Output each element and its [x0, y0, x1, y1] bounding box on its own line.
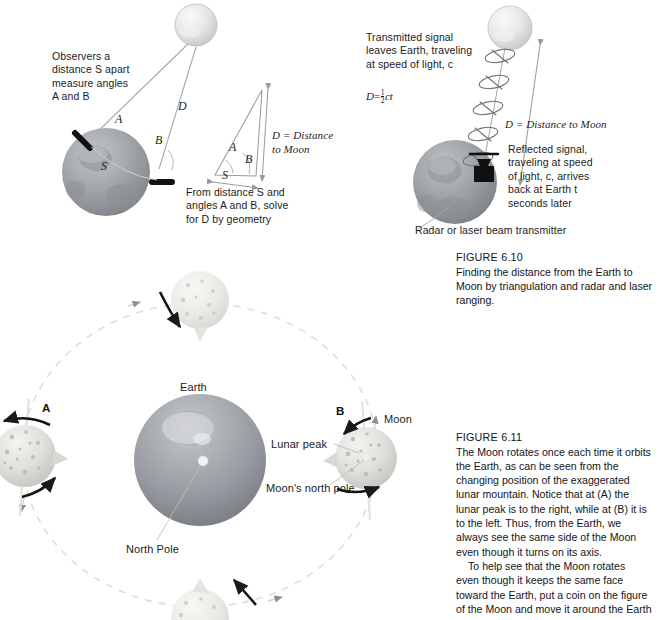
moon-b-north-pole-dot	[363, 454, 369, 460]
figure-611-caption-title: FIGURE 6.11	[456, 430, 665, 445]
earth-north-pole-dot	[198, 456, 208, 466]
orbit-position-b-tag: B	[336, 405, 344, 417]
triangle-side-label-s: S	[222, 168, 228, 183]
moon-position-a	[0, 399, 68, 516]
figure-610-caption: FIGURE 6.10 Finding the distance from th…	[456, 250, 661, 307]
radar-distance-to-moon-label: D = Distance to Moon	[505, 103, 660, 131]
figure-611-caption-paragraph-2: To help see that the Moon rotates even t…	[456, 559, 665, 616]
reflected-signal-note: Reflected signal, traveling at speed of …	[508, 143, 628, 210]
moon-top-sphere	[171, 271, 229, 329]
triangle-d-distance-label: D = Distance to Moon	[272, 128, 342, 157]
figure-610-caption-body: Finding the distance from the Earth to M…	[456, 265, 661, 308]
angle-label-b: B	[155, 133, 162, 148]
orbit-position-a-tag: A	[42, 402, 50, 414]
triangulation-diagram	[62, 4, 268, 216]
moon-position-top	[160, 271, 229, 342]
orbit-direction-arrow-top	[128, 302, 140, 306]
triangle-d-measure	[262, 89, 268, 181]
formula-fraction: 12	[381, 89, 385, 105]
orbit-direction-arrow-bottom	[268, 597, 282, 601]
moon-top-lunar-peak	[194, 327, 208, 342]
transmitted-signal-note: Transmitted signal leaves Earth, traveli…	[366, 31, 494, 71]
figure-610-caption-title: FIGURE 6.10	[456, 250, 661, 265]
figure-611-caption-paragraph-1: The Moon rotates once each time it orbit…	[456, 445, 665, 559]
moon-a-sphere	[0, 425, 56, 487]
triangle-angle-label-a: A	[229, 140, 236, 155]
orbit-diagram	[0, 271, 397, 620]
triangle-outline	[215, 90, 262, 176]
geometry-note: From distance S and angles A and B, solv…	[186, 186, 321, 226]
triangle-angle-label-b: B	[245, 152, 252, 167]
angle-arc-b	[168, 150, 173, 170]
formula-d: D	[366, 90, 374, 102]
formula-denominator: 2	[381, 96, 385, 105]
moon-position-bottom	[171, 578, 256, 620]
observers-note: Observers a distance S apart measure ang…	[52, 50, 177, 104]
formula-numerator: 1	[381, 89, 385, 97]
angle-label-a: A	[115, 112, 122, 127]
distance-label-d: D	[178, 99, 187, 114]
moon-b-lunar-peak	[323, 452, 339, 468]
transmitter-label: Radar or laser beam transmitter	[415, 224, 645, 237]
figure-page: Observers a distance S apart measure ang…	[0, 0, 665, 620]
formula-equals: =	[374, 90, 380, 102]
radar-formula: D=12ct	[366, 75, 393, 105]
moon-sphere-triangulation	[175, 4, 217, 46]
figure-611-caption: FIGURE 6.11 The Moon rotates once each t…	[456, 430, 665, 616]
moon-label: Moon	[384, 412, 412, 426]
north-pole-label: North Pole	[126, 542, 179, 556]
radar-distance-text: D = Distance to Moon	[505, 118, 607, 130]
moons-north-pole-label: Moon's north pole	[266, 481, 355, 495]
moon-sphere-radar	[488, 6, 532, 50]
formula-ct: ct	[385, 90, 393, 102]
moon-a-lunar-peak	[52, 450, 68, 466]
lunar-peak-label: Lunar peak	[271, 437, 327, 451]
baseline-label-s: S	[101, 159, 107, 174]
earth-label: Earth	[180, 380, 207, 394]
moon-bottom-lunar-peak	[192, 578, 209, 593]
